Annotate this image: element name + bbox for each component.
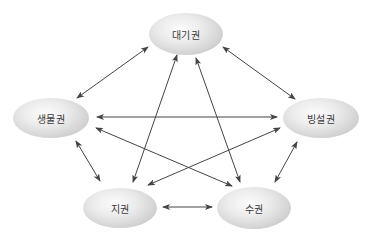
node-biosphere-label: 생물권	[37, 111, 66, 126]
arrow-cryosphere-geosphere	[148, 128, 280, 185]
arrow-atmosphere-cryosphere	[223, 47, 295, 99]
spheres-diagram: 대기권 생물권 빙설권 지권 수권	[0, 0, 380, 233]
node-atmosphere: 대기권	[149, 13, 223, 55]
arrow-atmosphere-hydrosphere	[196, 58, 240, 182]
node-biosphere: 생물권	[13, 98, 89, 138]
arrow-cryosphere-hydrosphere	[275, 142, 297, 182]
node-hydrosphere: 수권	[217, 187, 291, 229]
node-cryosphere-label: 빙설권	[307, 111, 336, 126]
node-hydrosphere-label: 수권	[245, 201, 264, 216]
arrow-biosphere-geosphere	[76, 141, 100, 181]
arrow-atmosphere-biosphere	[77, 47, 148, 98]
node-atmosphere-label: 대기권	[172, 27, 201, 42]
arrow-atmosphere-geosphere	[133, 55, 177, 182]
node-geosphere-label: 지권	[111, 201, 130, 216]
node-geosphere: 지권	[83, 188, 157, 228]
node-cryosphere: 빙설권	[283, 98, 359, 138]
